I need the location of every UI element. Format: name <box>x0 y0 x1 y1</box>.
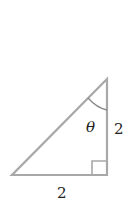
vertical-side-label: 2 <box>114 120 124 138</box>
triangle-diagram: θ 2 2 <box>0 0 134 200</box>
horizontal-side-label: 2 <box>57 184 67 200</box>
angle-arc <box>88 98 107 110</box>
right-angle-marker <box>92 161 107 175</box>
angle-theta-label: θ <box>86 118 95 136</box>
